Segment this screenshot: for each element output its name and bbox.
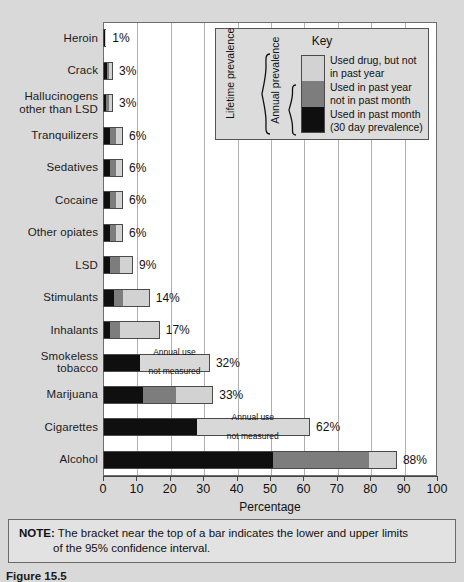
bar-value-label-tranquilizers: 6% — [129, 127, 146, 145]
bar-stimulants — [103, 289, 150, 307]
bar-value-label-heroin: 1% — [112, 29, 129, 47]
segment-lifetime — [109, 63, 112, 79]
segment-lifetime — [116, 128, 122, 144]
legend-entry-past-year: Used in past year not in past month — [330, 81, 424, 106]
segment-past-year — [110, 322, 120, 338]
not-measured-line1: Annual use — [227, 413, 279, 423]
figure-container: Heroin1%Crack3%Hallucinogensother than L… — [0, 0, 464, 582]
bar-value-label-stimulants: 14% — [156, 289, 180, 307]
x-tick-20 — [170, 476, 171, 481]
figure-caption: Figure 15.5 — [6, 570, 67, 582]
segment-past-year — [110, 257, 119, 273]
segment-past-month — [104, 355, 140, 371]
bar-sedatives — [103, 159, 123, 177]
bar-alcohol — [103, 451, 397, 469]
gridline-20 — [171, 23, 172, 475]
y-axis-label-smokeless-tobacco: Smokelesstobacco — [0, 350, 98, 375]
x-tick-10 — [136, 476, 137, 481]
bar-value-label-cocaine: 6% — [129, 191, 146, 209]
x-tick-label-30: 30 — [188, 482, 218, 496]
bar-value-label-other-opiates: 6% — [129, 224, 146, 242]
segment-lifetime — [120, 322, 159, 338]
segment-past-month — [104, 387, 143, 403]
not-measured-line2: not measured — [227, 432, 279, 442]
bar-value-label-crack: 3% — [119, 62, 136, 80]
note-box: NOTE: The bracket near the top of a bar … — [8, 519, 456, 563]
x-tick-label-60: 60 — [288, 482, 318, 496]
gridline-30 — [204, 23, 205, 475]
x-tick-100 — [437, 476, 438, 481]
bar-value-label-sedatives: 6% — [129, 159, 146, 177]
x-tick-label-20: 20 — [155, 482, 185, 496]
bar-smokeless-tobacco: Annual usenot measured — [103, 354, 210, 372]
x-tick-90 — [404, 476, 405, 481]
bar-hallucinogens-other-than-lsd — [103, 94, 113, 112]
x-tick-70 — [337, 476, 338, 481]
bar-value-label-inhalants: 17% — [166, 321, 190, 339]
segment-past-month — [104, 419, 197, 435]
legend-title: Key — [216, 34, 428, 48]
segment-lifetime — [116, 160, 122, 176]
legend-entry-labels: Used drug, but not in past year Used in … — [330, 54, 424, 135]
bar-value-label-hallucinogens-other-than-lsd: 3% — [119, 94, 136, 112]
legend-bracket-lifetime-label: Lifetime prevalence — [225, 47, 237, 119]
x-axis-title: Percentage — [103, 500, 437, 514]
legend-bracket-annual-label: Annual prevalence — [270, 62, 282, 124]
bar-tranquilizers — [103, 127, 123, 145]
y-axis-label-heroin: Heroin — [0, 32, 98, 45]
gridline-10 — [137, 23, 138, 475]
legend-entry-past-month: Used in past month (30 day prevalence) — [330, 108, 424, 133]
x-tick-label-70: 70 — [322, 482, 352, 496]
segment-lifetime — [123, 290, 149, 306]
y-axis-label-sedatives: Sedatives — [0, 161, 98, 174]
segment-lifetime — [116, 192, 122, 208]
x-tick-80 — [370, 476, 371, 481]
y-axis-label-alcohol: Alcohol — [0, 453, 98, 466]
segment-lifetime — [120, 257, 132, 273]
y-axis-label-crack: Crack — [0, 64, 98, 77]
x-tick-50 — [270, 476, 271, 481]
x-tick-label-10: 10 — [121, 482, 151, 496]
x-tick-label-0: 0 — [88, 482, 118, 496]
legend-key-box: Key Lifetime prevalence Annual prevalenc… — [215, 28, 429, 140]
legend-entry-lifetime: Used drug, but not in past year — [330, 54, 424, 79]
note-line2: of the 95% confidence interval. — [19, 541, 445, 556]
bar-other-opiates — [103, 224, 123, 242]
x-tick-30 — [203, 476, 204, 481]
bar-cocaine — [103, 191, 123, 209]
legend-swatch-past-year — [302, 81, 324, 106]
y-axis-label-lsd: LSD — [0, 259, 98, 272]
y-axis-label-cigarettes: Cigarettes — [0, 421, 98, 434]
segment-lifetime — [116, 225, 122, 241]
segment-past-year — [273, 452, 369, 468]
bar-crack — [103, 62, 113, 80]
bar-value-label-smokeless-tobacco: 32% — [216, 354, 240, 372]
not-measured-line1: Annual use — [148, 348, 200, 358]
y-axis-label-cocaine: Cocaine — [0, 194, 98, 207]
segment-lifetime — [369, 452, 396, 468]
y-axis-label-marijuana: Marijuana — [0, 388, 98, 401]
x-tick-label-90: 90 — [389, 482, 419, 496]
bar-lsd — [103, 256, 133, 274]
note-line1: The bracket near the top of a bar indica… — [58, 527, 408, 539]
y-axis-label-tranquilizers: Tranquilizers — [0, 129, 98, 142]
segment-annual-use-not-measured: Annual usenot measured — [140, 355, 209, 371]
segment-past-year — [114, 290, 124, 306]
x-tick-label-100: 100 — [422, 482, 452, 496]
y-axis-label-hallucinogens-other-than-lsd: Hallucinogensother than LSD — [0, 90, 98, 115]
y-axis-label-other-opiates: Other opiates — [0, 226, 98, 239]
not-measured-line2: not measured — [148, 367, 200, 377]
segment-past-month — [104, 290, 114, 306]
legend-swatch-past-month — [302, 107, 324, 132]
x-tick-0 — [103, 476, 104, 481]
y-axis-label-stimulants: Stimulants — [0, 291, 98, 304]
legend-swatch-stack — [301, 55, 325, 133]
note-prefix: NOTE: — [19, 527, 55, 539]
x-tick-60 — [303, 476, 304, 481]
x-tick-40 — [237, 476, 238, 481]
segment-lifetime — [176, 387, 212, 403]
bar-marijuana — [103, 386, 213, 404]
y-axis-label-inhalants: Inhalants — [0, 324, 98, 337]
bar-cigarettes: Annual usenot measured — [103, 418, 310, 436]
bar-value-label-lsd: 9% — [139, 256, 156, 274]
